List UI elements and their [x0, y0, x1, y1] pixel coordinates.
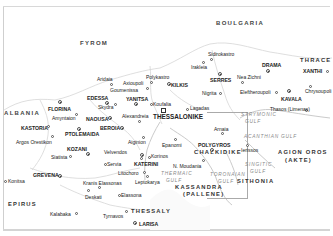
city-label-naousa: NAOUSA [86, 116, 108, 122]
city-label-velvendos: Velvendos [104, 149, 127, 155]
city-label-goumenissa: Goumenissa [110, 87, 138, 93]
country-label-fyrom: FYROM [80, 40, 108, 46]
city-label-konitsa: Konitsa [8, 178, 25, 184]
capital-marker-icon [140, 153, 144, 157]
city-marker-icon [174, 138, 177, 141]
city-label-katerini: KATERINI [134, 161, 158, 167]
country-label-bulgaria: BOULGARIA [216, 20, 264, 26]
city-marker-icon [98, 186, 101, 189]
city-label-thasos: Thasos (Limenas) [270, 106, 310, 112]
city-label-thessalonike: THESSALONIKE [153, 114, 203, 120]
city-label-servia: Servia [107, 161, 121, 167]
city-label-argos-orestikon: Argos Orestikon [16, 139, 52, 145]
city-marker-icon [186, 108, 189, 111]
capital-marker-icon [218, 72, 222, 76]
city-label-nigrita: Nigrita [202, 90, 216, 96]
city-label-drama: DRAMA [262, 62, 281, 68]
city-label-chrysoupoli: Chrysoupoli [305, 88, 331, 94]
city-marker-icon [140, 157, 143, 160]
city-label-deskati: Deskati [85, 194, 102, 200]
city-label-yanitsa: YANITSA [126, 96, 148, 102]
region-label-agion-oros: AGION OROS [278, 149, 328, 155]
city-marker-icon [210, 58, 213, 61]
region-label-sithonia: SITHONIA [237, 178, 274, 184]
city-label-larisa: LARISA [139, 221, 158, 227]
city-label-irakleia: Irakleia [191, 64, 207, 70]
city-label-nea-zichni: Nea Zichni [237, 74, 261, 80]
region-label-thrace: THRACE [300, 57, 331, 63]
city-marker-icon [110, 83, 113, 86]
city-label-elassona: Elassona [121, 192, 142, 198]
city-label-axioupoli: Axioupoli [123, 80, 143, 86]
thermaic-coast [145, 122, 160, 180]
city-label-kavala: KAVALA [281, 96, 302, 102]
city-label-koufalia: Koufalia [153, 101, 171, 107]
city-label-eleftheroupoli: Eleftheroupoli [240, 89, 271, 95]
city-label-polygyros: POLYGYROS [198, 142, 230, 148]
capital-marker-icon [266, 69, 270, 73]
city-label-beroia: BEROIA [100, 125, 120, 131]
region-label-chalkidike: CHALKIDIKE [194, 149, 242, 155]
city-label-florina: FLORINA [48, 106, 71, 112]
city-label-aiginion: Aiginion [128, 139, 146, 145]
city-marker-icon [221, 132, 224, 135]
city-marker-icon [125, 210, 128, 213]
gulf-label-thermaic-gulf: GULF [166, 178, 182, 184]
capital-marker-icon [210, 148, 214, 152]
region-label-pallene: (PALLENE) [183, 191, 224, 197]
strymon-river [212, 50, 240, 120]
region-label-akte: (AKTE) [285, 157, 312, 163]
city-marker-icon [114, 103, 117, 106]
city-label-alexandreia: Alexandreia [122, 113, 148, 119]
capital-marker-icon [108, 116, 112, 120]
city-marker-icon [75, 212, 78, 215]
city-label-aridaia: Aridaia [97, 76, 113, 82]
capital-marker-icon [120, 126, 124, 130]
city-marker-icon [87, 189, 90, 192]
city-marker-icon [4, 180, 7, 183]
city-label-serres: SERRES [210, 77, 231, 83]
city-label-leptokarya: Leptokarya [135, 179, 160, 185]
city-label-korinos: Korinos [151, 153, 168, 159]
city-label-siatista: Siatista [51, 154, 67, 160]
city-label-n-moudania: N. Moudania [173, 163, 201, 169]
city-label-kilkis: KILKIS [171, 82, 188, 88]
city-marker-icon [146, 175, 149, 178]
gulf-label-singitic-gulf: GULF [250, 169, 266, 175]
gulf-label-strymonic: STRYMONIC [241, 112, 277, 118]
city-label-amyntaion: Amyntaion [52, 115, 76, 121]
capital-marker-icon [58, 100, 62, 104]
region-label-epirus: EPIRUS [8, 201, 37, 207]
capital-marker-icon [133, 221, 137, 225]
city-label-kalabaka: Kalabaka [50, 211, 71, 217]
city-marker-icon [275, 91, 278, 94]
city-marker-icon [241, 81, 244, 84]
city-label-xanthi: XANTHI [303, 68, 322, 74]
capital-marker-icon [134, 102, 138, 106]
capital-marker-icon [287, 89, 291, 93]
city-marker-icon [202, 159, 205, 162]
region-label-kassandra: KASSANDRA [175, 184, 223, 190]
region-label-thessaly: THESSALY [131, 208, 171, 214]
city-label-lagadas: Lagadas [190, 105, 209, 111]
city-label-arnaia: Arnaia [214, 126, 228, 132]
city-label-epanomi: Epanomi [162, 142, 182, 148]
gulf-label-strymonic-gulf: GULF [245, 119, 261, 125]
gulf-label-toronaian-gulf: GULF [218, 179, 234, 185]
gulf-label-thermaic: THERMAIC [161, 171, 192, 177]
gulf-label-toronaian: TORONAIAN [210, 172, 246, 178]
city-marker-icon [219, 92, 222, 95]
city-label-skydra: Skydra [98, 104, 114, 110]
country-label-albania: ALBANIA [4, 110, 40, 116]
city-marker-icon [69, 155, 72, 158]
city-label-litochoro: Litochoro [118, 170, 139, 176]
city-marker-icon [138, 120, 141, 123]
city-label-tyrnavos: Tyrnavos [103, 213, 123, 219]
capital-marker-icon [86, 152, 90, 156]
capital-marker-icon [326, 70, 329, 73]
city-label-polykastro: Polykastro [146, 74, 169, 80]
city-label-sidirokastro: Sidirokastro [208, 51, 234, 57]
city-label-kranis-elassonas: Kranis Elassonas [83, 180, 122, 186]
city-label-edessa: EDESSA [87, 95, 108, 101]
city-label-ierissos: Ierissos [241, 147, 258, 153]
